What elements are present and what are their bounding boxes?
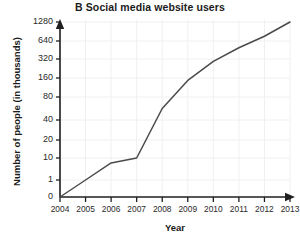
x-tick-label: 2013 [275, 205, 300, 214]
chart-figure: B Social media website users Number of p… [0, 0, 300, 239]
y-tick-label: 1 [19, 175, 53, 184]
y-tick-label: 40 [19, 115, 53, 124]
y-tick-label: 640 [19, 36, 53, 45]
x-axis-label: Year [55, 222, 295, 233]
y-tick-label: 10 [19, 153, 53, 162]
y-tick-label: 80 [19, 92, 53, 101]
y-tick-label: 1280 [19, 17, 53, 26]
chart-title: B Social media website users [0, 1, 300, 13]
axis-lines [56, 19, 295, 201]
data-series-line [60, 22, 290, 197]
grid-lines [60, 20, 290, 197]
y-tick-label: 160 [19, 73, 53, 82]
y-axis-label: Number of people (in thousands) [11, 27, 22, 197]
y-tick-label: 0 [19, 192, 53, 201]
y-tick-label: 320 [19, 54, 53, 63]
y-tick-label: 20 [19, 135, 53, 144]
tick-marks [56, 22, 290, 202]
